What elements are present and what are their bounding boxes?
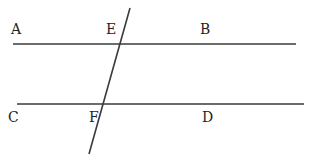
- label-point-a: A: [11, 22, 21, 36]
- label-point-c: C: [8, 110, 19, 124]
- label-point-b: B: [200, 22, 210, 36]
- parallel-lines-diagram: [0, 0, 311, 164]
- label-point-d: D: [202, 110, 213, 124]
- label-point-e: E: [106, 22, 116, 36]
- label-point-f: F: [89, 110, 99, 124]
